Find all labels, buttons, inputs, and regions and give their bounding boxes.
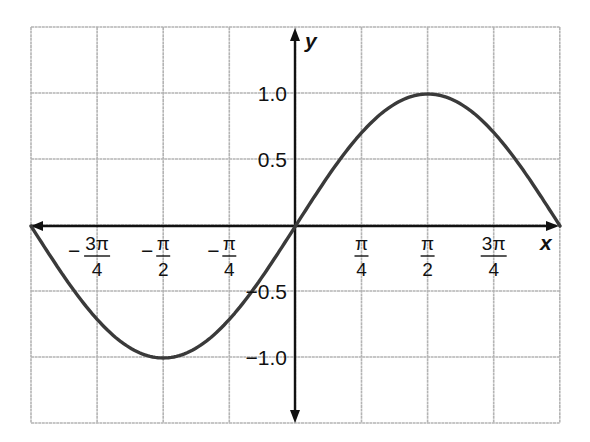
svg-text:π: π — [355, 233, 368, 254]
x-tick-label: 3π4 — [481, 233, 507, 280]
svg-text:3π: 3π — [482, 233, 506, 254]
svg-text:2: 2 — [158, 259, 169, 280]
svg-text:2: 2 — [422, 259, 433, 280]
y-axis-down-arrow-icon — [290, 410, 300, 423]
svg-text:−: − — [141, 239, 153, 262]
y-tick-label: 1.0 — [258, 82, 287, 105]
x-tick-label: π4 — [355, 233, 369, 280]
y-tick-label: −1.0 — [246, 346, 287, 369]
x-tick-label: π2− — [141, 233, 170, 280]
y-axis-label: y — [304, 29, 318, 52]
sine-plot: 1.00.5−0.5−1.0 3π4−π2−π4−π4π23π4 y x — [0, 0, 590, 442]
svg-text:π: π — [223, 233, 236, 254]
y-tick-label: 0.5 — [258, 148, 287, 171]
y-tick-label: −0.5 — [246, 280, 287, 303]
svg-text:4: 4 — [224, 259, 235, 280]
svg-text:π: π — [157, 233, 170, 254]
svg-text:3π: 3π — [85, 233, 109, 254]
svg-text:−: − — [68, 239, 80, 262]
svg-text:4: 4 — [356, 259, 367, 280]
svg-text:4: 4 — [92, 259, 103, 280]
svg-text:−: − — [207, 239, 219, 262]
svg-text:4: 4 — [488, 259, 499, 280]
x-tick-label: π2 — [421, 233, 435, 280]
svg-text:π: π — [421, 233, 434, 254]
x-tick-label: 3π4− — [68, 233, 110, 280]
y-axis-up-arrow-icon — [290, 28, 300, 41]
x-axis-label: x — [539, 231, 553, 254]
x-tick-label: π4− — [207, 233, 236, 280]
